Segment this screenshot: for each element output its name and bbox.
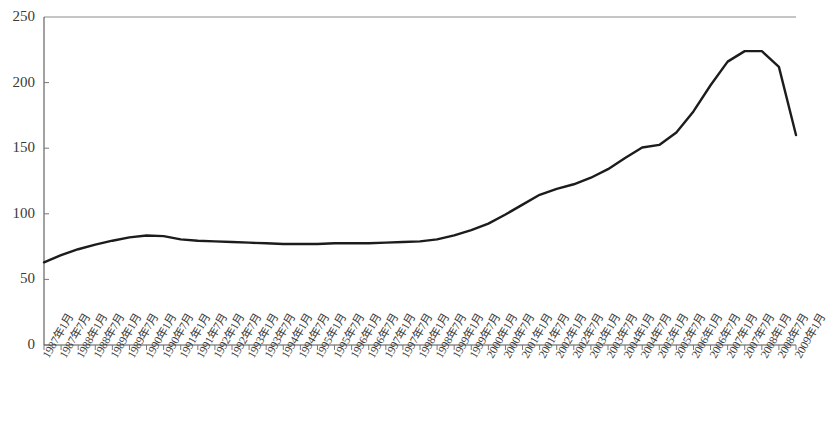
- y-tick-label: 0: [0, 337, 35, 352]
- y-tick-label: 50: [0, 271, 35, 286]
- y-tick-label: 250: [0, 9, 35, 24]
- y-tick-label: 150: [0, 140, 35, 155]
- y-tick-label: 200: [0, 75, 35, 90]
- data-series-line: [44, 51, 796, 262]
- y-tick-label: 100: [0, 206, 35, 221]
